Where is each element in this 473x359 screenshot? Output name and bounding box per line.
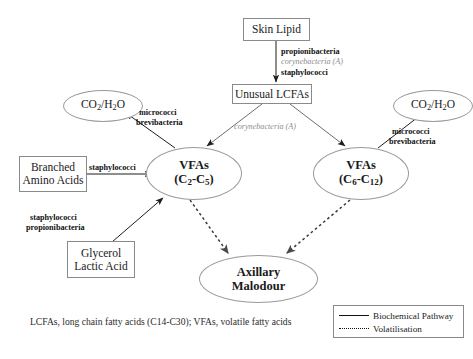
dotted-line-icon [339, 328, 370, 329]
node-glycerol-lactic-acid[interactable]: Glycerol Lactic Acid [67, 241, 135, 278]
node-vfa-right[interactable]: VFAs (C6-C12) [313, 147, 409, 200]
node-skin-lipid-label: Skin Lipid [252, 23, 301, 36]
node-glycerol-lactic-acid-line2: Lactic Acid [74, 260, 127, 273]
legend-label-biochemical-pathway: Biochemical Pathway [370, 311, 453, 321]
edge-label-lcfa-to-vfa-corynebacteria: corynebacteria (A) [234, 122, 296, 132]
node-vfa-right-line2: (C6-C12) [339, 172, 383, 189]
edge-vfa-right-to-axillary-malodour [287, 200, 350, 253]
diagram-caption: LCFAs, long chain fatty acids (C14-C30);… [30, 316, 291, 327]
edge-vfa-left-to-axillary-malodour [190, 200, 228, 253]
edge-label-skin-to-lcfa-staphylococci: staphylococci [281, 68, 328, 78]
node-vfa-left-line2: (C2-C5) [174, 172, 214, 189]
node-vfa-right-line1: VFAs [346, 158, 376, 172]
node-axillary-malodour[interactable]: Axillary Malodour [199, 255, 318, 303]
node-unusual-lcfas-label: Unusual LCFAs [235, 88, 309, 101]
solid-line-icon [339, 315, 370, 316]
edge-label-branched-staphylococci: staphylococci [89, 163, 136, 173]
node-co2-h2o-right[interactable]: CO2/H2O [393, 90, 473, 122]
edge-label-glycerol-staphylococci: staphylococci [30, 213, 77, 223]
node-glycerol-lactic-acid-line1: Glycerol [81, 247, 121, 260]
node-unusual-lcfas[interactable]: Unusual LCFAs [232, 84, 312, 104]
diagram-canvas: Skin Lipid Unusual LCFAs CO2/H2O CO2/H2O… [0, 0, 473, 359]
node-branched-amino-acids[interactable]: Branched Amino Acids [19, 156, 87, 192]
node-branched-amino-acids-line1: Branched [31, 161, 75, 174]
edge-unusual-lcfas-to-vfa-right [290, 104, 345, 146]
node-co2-h2o-left[interactable]: CO2/H2O [63, 90, 143, 122]
node-vfa-left[interactable]: VFAs (C2-C5) [146, 147, 242, 200]
node-vfa-left-line1: VFAs [179, 158, 209, 172]
edge-label-vfa-right-brevibacteria: brevibacteria [389, 137, 436, 147]
edge-label-glycerol-propionibacteria: propionibacteria [26, 223, 85, 233]
node-branched-amino-acids-line2: Amino Acids [22, 174, 83, 187]
edge-label-skin-to-lcfa-propionibacteria: propionibacteria [281, 47, 340, 57]
edge-label-vfa-left-brevibacteria: brevibacteria [136, 118, 183, 128]
legend-row-biochemical-pathway: Biochemical Pathway [339, 309, 459, 322]
legend-label-volatilisation: Volatilisation [370, 324, 422, 334]
node-co2-h2o-left-label: CO2/H2O [81, 98, 125, 114]
edge-label-vfa-right-micrococci: micrococci [392, 127, 430, 137]
legend-row-volatilisation: Volatilisation [339, 322, 459, 335]
edge-label-skin-to-lcfa-corynebacteria: corynebacteria (A) [281, 57, 343, 67]
node-axillary-malodour-line1: Axillary [237, 265, 281, 279]
node-skin-lipid[interactable]: Skin Lipid [243, 18, 310, 41]
node-axillary-malodour-line2: Malodour [232, 279, 285, 293]
legend: Biochemical Pathway Volatilisation [333, 305, 464, 338]
node-co2-h2o-right-label: CO2/H2O [411, 98, 455, 114]
edge-label-vfa-left-micrococci: micrococci [139, 108, 177, 118]
